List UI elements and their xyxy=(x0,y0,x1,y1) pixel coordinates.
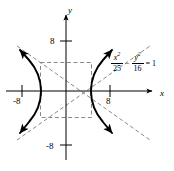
equation-operator: − xyxy=(125,59,130,68)
equation-x-numerator: x2 xyxy=(113,54,122,63)
right-branch-upper-arc xyxy=(91,50,112,91)
equation-y-exponent: 2 xyxy=(138,51,141,57)
equation-y-denominator: 16 xyxy=(133,64,143,73)
y-axis-label: y xyxy=(68,6,72,15)
axes-group xyxy=(6,15,152,160)
equation-equals: = 1 xyxy=(146,59,157,68)
equation-x-exponent: 2 xyxy=(117,51,120,57)
equation-y-numerator: y2 xyxy=(133,54,142,63)
hyperbola-equation-annotation: x2 25 − y2 16 = 1 xyxy=(110,54,157,73)
equation-x-fraction: x2 25 xyxy=(111,54,123,73)
x-axis-label: x xyxy=(160,89,164,98)
plot-canvas xyxy=(0,0,174,171)
equation-x-denominator: 25 xyxy=(112,64,122,73)
y-tick-label-neg8: -8 xyxy=(46,142,54,151)
left-branch-lower-arc xyxy=(20,91,41,133)
x-tick-label-pos8: 8 xyxy=(106,97,111,106)
left-branch-upper-arc xyxy=(20,50,41,91)
hyperbola-figure: -8 8 8 -8 y x x2 25 − y2 16 = 1 xyxy=(0,0,174,171)
y-tick-label-pos8: 8 xyxy=(50,37,55,46)
x-tick-label-neg8: -8 xyxy=(13,97,21,106)
equation-y-fraction: y2 16 xyxy=(132,54,144,73)
